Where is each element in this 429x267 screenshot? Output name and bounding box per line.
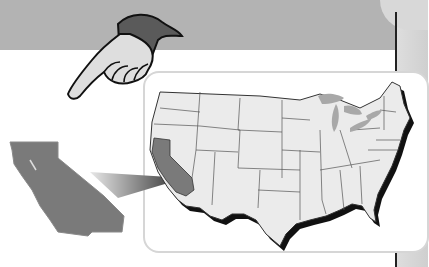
pointing-hand-icon [68, 15, 182, 99]
us-map [150, 82, 410, 246]
california-inset [10, 142, 124, 236]
